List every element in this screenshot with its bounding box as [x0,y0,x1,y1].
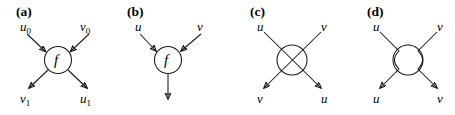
panel-c-wires [232,0,347,115]
panel-b: (b) u v f [113,0,228,115]
panel-b-node-label: f [164,53,168,68]
panel-a-node-label: f [54,53,58,68]
panel-a-arrow-in-right [71,34,90,52]
panel-b-arrow-in-left [140,34,156,51]
panel-a: (a) u0 v0 v1 u1 f [0,0,115,115]
figure-canvas: (a) u0 v0 v1 u1 f (b) u v [0,0,455,115]
panel-b-arrow-in-right [181,34,201,51]
panel-d-wires [348,0,455,115]
panel-d-wire-v-bypass-right [418,32,437,88]
panel-d: (d) u v u v [348,0,455,115]
panel-d-wire-u-bypass-left [380,32,399,88]
panel-a-arrow-in-left [27,34,46,52]
panel-a-arrow-out-right [68,70,87,88]
panel-b-wires [113,0,228,115]
panel-a-arrow-out-left [29,70,48,88]
panel-c: (c) u v v u [232,0,347,115]
